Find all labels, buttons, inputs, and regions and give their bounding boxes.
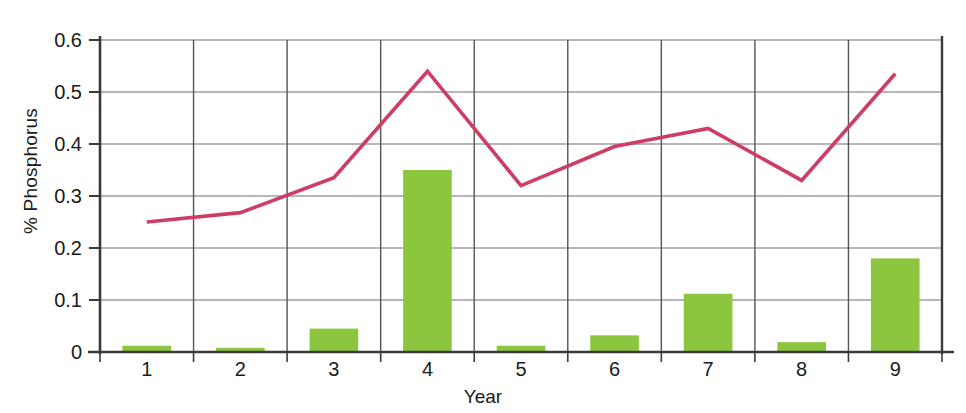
x-tick-label-3: 3 (304, 358, 364, 381)
x-tick-label-6: 6 (585, 358, 645, 381)
x-tick-label-9: 9 (865, 358, 925, 381)
axis-ticks (89, 40, 942, 362)
x-tick-label-2: 2 (210, 358, 270, 381)
axis-lines (88, 36, 954, 354)
x-tick-label-4: 4 (397, 358, 457, 381)
bar-year-7 (684, 294, 733, 352)
bar-year-4 (403, 170, 452, 352)
plot-area (0, 0, 966, 413)
x-tick-label-8: 8 (772, 358, 832, 381)
bar-year-9 (871, 258, 920, 352)
bar-year-3 (310, 329, 359, 352)
x-tick-label-7: 7 (678, 358, 738, 381)
bar-year-6 (590, 335, 639, 352)
x-tick-label-5: 5 (491, 358, 551, 381)
phosphorus-chart: % Phosphorus 0.6 0.5 0.4 0.3 0.2 0.1 0 1… (0, 0, 966, 413)
x-tick-label-1: 1 (117, 358, 177, 381)
bar-year-8 (777, 342, 826, 352)
line-series (147, 71, 895, 222)
bar-series (122, 170, 919, 352)
gridlines (100, 40, 942, 352)
x-axis-title: Year (0, 386, 966, 408)
trend-line (147, 71, 895, 222)
